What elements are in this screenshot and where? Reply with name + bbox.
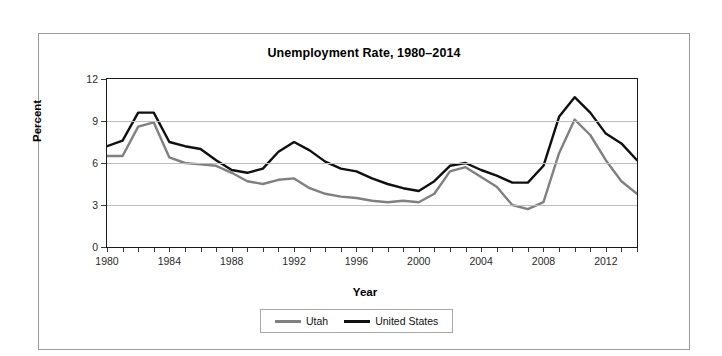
x-tick-mark (621, 248, 622, 252)
y-tick-label: 6 (68, 157, 98, 169)
x-tick-mark (528, 248, 529, 252)
legend-label: Utah (306, 315, 328, 327)
x-tick-label: 2000 (407, 255, 430, 267)
x-tick-mark (388, 248, 389, 252)
x-tick-mark (403, 248, 404, 252)
legend-swatch-icon (275, 320, 301, 323)
x-tick-mark (341, 248, 342, 252)
x-tick-mark (232, 248, 233, 252)
x-tick-mark (356, 248, 357, 252)
x-tick-mark (497, 248, 498, 252)
x-tick-mark (263, 248, 264, 252)
gridline (107, 121, 637, 122)
x-tick-mark (201, 248, 202, 252)
x-tick-mark (310, 248, 311, 252)
x-tick-mark (372, 248, 373, 252)
x-tick-mark (154, 248, 155, 252)
x-tick-mark (216, 248, 217, 252)
x-tick-mark (247, 248, 248, 252)
x-tick-label: 2012 (594, 255, 617, 267)
x-tick-mark (325, 248, 326, 252)
x-tick-label: 1988 (220, 255, 243, 267)
x-tick-mark (169, 248, 170, 252)
x-tick-mark (606, 248, 607, 252)
x-tick-mark (107, 248, 108, 252)
x-tick-label: 1984 (158, 255, 181, 267)
y-tick-label: 0 (68, 241, 98, 253)
x-tick-mark (512, 248, 513, 252)
x-tick-mark (466, 248, 467, 252)
x-tick-mark (637, 248, 638, 252)
x-tick-label: 2004 (469, 255, 492, 267)
legend-label: United States (375, 315, 438, 327)
x-tick-mark (543, 248, 544, 252)
gridline (107, 163, 637, 164)
x-tick-label: 1996 (345, 255, 368, 267)
y-tick-label: 3 (68, 199, 98, 211)
y-tick-label: 12 (68, 73, 98, 85)
x-tick-label: 1992 (282, 255, 305, 267)
series-line-utah (107, 120, 637, 210)
x-tick-mark (575, 248, 576, 252)
x-tick-mark (138, 248, 139, 252)
gridline (107, 205, 637, 206)
legend-item[interactable]: United States (344, 315, 438, 327)
chart-legend: UtahUnited States (260, 309, 453, 333)
x-tick-mark (419, 248, 420, 252)
x-tick-mark (450, 248, 451, 252)
plot-frame (106, 78, 638, 248)
x-tick-label: 2008 (532, 255, 555, 267)
chart-figure: Unemployment Rate, 1980–2014 Percent 036… (38, 33, 690, 350)
y-axis-label: Percent (31, 100, 43, 142)
series-line-united-states (107, 97, 637, 191)
x-tick-mark (294, 248, 295, 252)
x-tick-mark (590, 248, 591, 252)
legend-item[interactable]: Utah (275, 315, 328, 327)
x-tick-mark (278, 248, 279, 252)
x-tick-label: 1980 (95, 255, 118, 267)
x-tick-mark (481, 248, 482, 252)
plot-area: Percent 036912 1980198419881992199620002… (39, 34, 691, 351)
x-tick-mark (559, 248, 560, 252)
x-tick-mark (185, 248, 186, 252)
y-tick-label: 9 (68, 115, 98, 127)
x-tick-mark (123, 248, 124, 252)
x-tick-mark (434, 248, 435, 252)
legend-swatch-icon (344, 320, 370, 323)
x-axis-label: Year (39, 286, 691, 298)
